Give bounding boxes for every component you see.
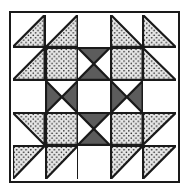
quilt-outer-border [9, 11, 180, 183]
cell-r4c3 [78, 113, 111, 146]
cell-r4c4 [111, 113, 144, 146]
cell-r5c2 [46, 146, 79, 179]
cell-r3c4-patch-2-dark [127, 81, 143, 113]
cell-r2c1 [13, 48, 46, 81]
cell-r3c2 [46, 81, 79, 114]
cell-r5c4 [111, 146, 144, 179]
cell-r5c2-patch-1-dotted [46, 146, 78, 179]
cell-r5c3 [78, 146, 111, 179]
cell-r3c4-patch-1-dark [111, 81, 127, 113]
cell-r4c1-patch-1-dotted [13, 113, 45, 145]
cell-r5c1-patch-1-dotted [13, 146, 45, 179]
cell-r4c2 [46, 113, 79, 146]
cell-r3c4 [111, 81, 144, 114]
cell-r1c5-patch-1-dotted [143, 15, 176, 47]
quilt-block-image [0, 0, 190, 194]
cell-r4c3-patch-2-dark [78, 129, 110, 145]
cell-r1c2-patch-1-dotted [46, 15, 78, 47]
cell-r1c2 [46, 15, 79, 48]
cell-r2c2 [46, 48, 79, 81]
cell-r2c3-patch-2-dark [78, 64, 110, 80]
cell-r2c1-patch-1-dotted [13, 48, 45, 80]
cell-r4c2-patch-1-dotted [46, 113, 78, 145]
cell-r2c4-patch-1-dotted [111, 48, 143, 80]
cell-r2c2-patch-1-dotted [46, 48, 78, 80]
cell-r1c4 [111, 15, 144, 48]
quilt-grid [13, 15, 176, 179]
cell-r1c3 [78, 15, 111, 48]
cell-r1c1 [13, 15, 46, 48]
cell-r5c4-patch-1-dotted [111, 146, 143, 179]
cell-r3c2-patch-1-dark [46, 81, 62, 113]
cell-r2c5 [143, 48, 176, 81]
cell-r2c5-patch-1-dotted [143, 48, 176, 80]
cell-r4c1 [13, 113, 46, 146]
cell-r1c4-patch-1-dotted [111, 15, 143, 47]
cell-r4c3-patch-1-dark [78, 113, 110, 129]
cell-r2c3 [78, 48, 111, 81]
cell-r1c1-patch-1-dotted [13, 15, 45, 47]
cell-r3c5 [143, 81, 176, 114]
cell-r4c4-patch-1-dotted [111, 113, 143, 145]
cell-r3c2-patch-2-dark [61, 81, 77, 113]
cell-r4c5 [143, 113, 176, 146]
cell-r5c1 [13, 146, 46, 179]
cell-r3c1 [13, 81, 46, 114]
cell-r3c3 [78, 81, 111, 114]
cell-r5c5 [143, 146, 176, 179]
cell-r1c5 [143, 15, 176, 48]
cell-r5c5-patch-1-dotted [143, 146, 176, 179]
cell-r4c5-patch-1-dotted [143, 113, 176, 145]
cell-r2c3-patch-1-dark [78, 48, 110, 64]
cell-r2c4 [111, 48, 144, 81]
